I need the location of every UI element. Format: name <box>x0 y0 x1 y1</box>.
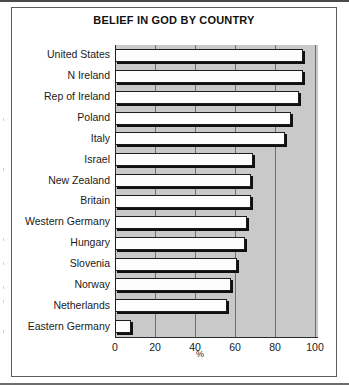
x-tick-label: 20 <box>149 341 161 353</box>
bar <box>115 237 245 250</box>
category-label: Norway <box>0 278 110 290</box>
x-axis-unit-label: % <box>196 349 204 359</box>
x-tick-label: 0 <box>112 341 118 353</box>
chart-title: BELIEF IN GOD BY COUNTRY <box>11 14 337 26</box>
plot-area <box>115 45 318 337</box>
category-label: Poland <box>0 111 110 123</box>
bar <box>115 112 291 125</box>
x-tick-label: 60 <box>229 341 241 353</box>
bar <box>115 216 247 229</box>
bar <box>115 278 231 291</box>
y-axis-line <box>115 45 116 337</box>
category-label: United States <box>0 48 110 60</box>
scan-speckle <box>3 330 4 333</box>
x-tick-label: 100 <box>306 341 324 353</box>
gridline-40 <box>195 45 196 337</box>
scan-speckle <box>3 168 4 171</box>
gridline-100 <box>315 45 316 337</box>
category-label: Slovenia <box>0 257 110 269</box>
scan-speckle <box>3 118 4 121</box>
category-label: Israel <box>0 153 110 165</box>
gridline-60 <box>235 45 236 337</box>
category-label: Eastern Germany <box>0 320 110 332</box>
bar <box>115 91 299 104</box>
bar <box>115 195 251 208</box>
category-label: New Zealand <box>0 174 110 186</box>
bar <box>115 320 131 333</box>
category-label: Western Germany <box>0 215 110 227</box>
bar <box>115 70 303 83</box>
scan-speckle <box>3 286 4 289</box>
x-axis-line <box>115 337 318 338</box>
bar <box>115 299 227 312</box>
bar <box>115 153 253 166</box>
bar <box>115 132 285 145</box>
category-label: Hungary <box>0 236 110 248</box>
bar <box>115 174 251 187</box>
bar <box>115 49 303 62</box>
x-tick-label: 80 <box>269 341 281 353</box>
gridline-80 <box>275 45 276 337</box>
category-label: Netherlands <box>0 299 110 311</box>
scan-speckle <box>3 262 4 265</box>
category-label: Italy <box>0 132 110 144</box>
bar <box>115 258 237 271</box>
scan-speckle <box>3 300 4 303</box>
scan-speckle <box>3 238 4 241</box>
gridline-20 <box>155 45 156 337</box>
category-label: Britain <box>0 194 110 206</box>
chart-figure: BELIEF IN GOD BY COUNTRY United StatesN … <box>0 0 349 385</box>
category-label: N Ireland <box>0 69 110 81</box>
x-axis-tick-labels: 020406080100 <box>115 341 318 359</box>
category-label: Rep of Ireland <box>0 90 110 102</box>
scan-edge-top <box>0 0 349 2</box>
category-axis-labels: United StatesN IrelandRep of IrelandPola… <box>0 45 110 337</box>
